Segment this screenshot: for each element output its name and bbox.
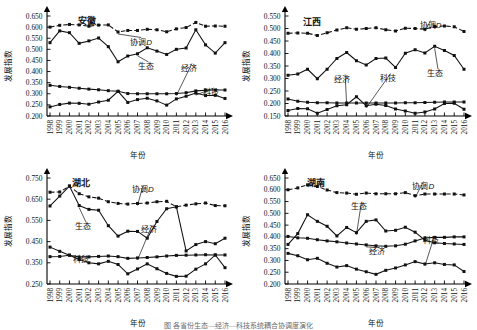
data-point-marker <box>194 21 197 24</box>
data-point-marker <box>345 226 348 229</box>
data-point-marker <box>287 252 290 255</box>
y-tick-label: 0.450 <box>26 237 43 246</box>
x-tick-label: 2005 <box>115 120 123 135</box>
series-label-经济: 经济 <box>369 246 385 256</box>
x-tick-label: 2016 <box>222 120 230 135</box>
data-point-marker <box>49 204 52 207</box>
data-point-marker <box>326 68 329 71</box>
data-point-marker <box>165 104 168 107</box>
data-point-marker <box>433 261 436 264</box>
data-point-marker <box>404 191 407 194</box>
data-point-marker <box>384 104 387 107</box>
data-point-marker <box>204 25 207 28</box>
data-point-marker <box>107 260 110 263</box>
data-point-marker <box>78 102 81 105</box>
data-point-marker <box>155 220 158 223</box>
x-tick-label: 2008 <box>144 120 152 135</box>
data-point-marker <box>97 197 100 200</box>
x-tick-label: 2006 <box>124 288 132 303</box>
data-point-marker <box>58 29 61 32</box>
data-point-marker <box>414 112 417 115</box>
data-point-marker <box>423 111 426 114</box>
data-point-marker <box>58 255 61 258</box>
data-point-marker <box>78 87 81 90</box>
data-point-marker <box>375 103 378 106</box>
data-point-marker <box>316 101 319 104</box>
data-point-marker <box>126 272 129 275</box>
data-point-marker <box>97 37 100 40</box>
data-point-marker <box>117 263 120 266</box>
y-tick-label: 0.300 <box>264 74 281 83</box>
x-tick-label: 2007 <box>373 288 381 303</box>
data-point-marker <box>78 204 81 207</box>
data-point-marker <box>146 46 149 49</box>
series-line-科技 <box>288 253 464 274</box>
data-point-marker <box>335 191 338 194</box>
x-tick-label: 2000 <box>304 288 312 303</box>
data-point-marker <box>68 254 71 257</box>
data-point-marker <box>214 242 217 245</box>
x-tick-label: 1999 <box>56 120 64 135</box>
data-point-marker <box>296 232 299 235</box>
y-tick-label: 0.400 <box>26 67 43 76</box>
data-point-marker <box>375 273 378 276</box>
data-point-marker <box>87 195 90 198</box>
data-point-marker <box>146 202 149 205</box>
data-point-marker <box>224 204 227 207</box>
data-point-marker <box>97 88 100 91</box>
y-tick-label: 0.600 <box>264 185 281 194</box>
data-point-marker <box>117 60 120 63</box>
data-point-marker <box>155 92 158 95</box>
data-point-marker <box>155 99 158 102</box>
figure-panel-grid: 0.2000.2500.3000.3500.4000.4500.5000.550… <box>0 0 477 330</box>
data-point-marker <box>463 68 466 71</box>
x-tick-label: 2009 <box>392 288 400 303</box>
y-tick-label: 0.450 <box>264 221 281 230</box>
x-tick-label: 2013 <box>431 120 439 135</box>
x-tick-label: 2000 <box>66 288 74 303</box>
data-point-marker <box>345 242 348 245</box>
data-point-marker <box>433 45 436 48</box>
data-point-marker <box>335 29 338 32</box>
data-point-marker <box>107 200 110 203</box>
data-point-marker <box>453 54 456 57</box>
data-point-marker <box>384 269 387 272</box>
data-point-marker <box>384 230 387 233</box>
y-tick-label: 0.450 <box>26 56 43 65</box>
x-tick-label: 2000 <box>304 120 312 135</box>
data-point-marker <box>404 27 407 30</box>
x-tick-label: 2005 <box>115 288 123 303</box>
series-line-生态 <box>50 186 225 251</box>
data-point-marker <box>433 108 436 111</box>
x-tick-label: 2004 <box>343 120 351 135</box>
data-point-marker <box>146 256 149 259</box>
data-point-marker <box>214 25 217 28</box>
data-point-marker <box>97 209 100 212</box>
y-tick-label: 0.650 <box>26 12 43 21</box>
data-point-marker <box>414 239 417 242</box>
x-tick-label: 1999 <box>294 288 302 303</box>
data-point-marker <box>296 236 299 239</box>
data-point-marker <box>463 101 466 104</box>
x-tick-label: 2011 <box>412 120 420 135</box>
x-tick-label: 2006 <box>124 120 132 135</box>
data-point-marker <box>463 243 466 246</box>
data-point-marker <box>394 229 397 232</box>
data-point-marker <box>68 102 71 105</box>
data-point-marker <box>345 264 348 267</box>
x-tick-label: 1998 <box>285 120 293 135</box>
data-point-marker <box>414 101 417 104</box>
data-point-marker <box>68 23 71 26</box>
x-tick-label: 2014 <box>441 120 449 135</box>
data-point-marker <box>394 244 397 247</box>
x-tick-label: 1999 <box>294 120 302 135</box>
data-point-marker <box>165 92 168 95</box>
series-label-协调D: 协调D <box>412 181 434 191</box>
data-point-marker <box>453 25 456 28</box>
series-label-科技: 科技 <box>423 235 439 245</box>
x-tick-label: 2002 <box>85 120 93 135</box>
data-point-marker <box>355 268 358 271</box>
data-point-marker <box>58 85 61 88</box>
x-tick-label: 2004 <box>105 120 113 135</box>
data-point-marker <box>394 30 397 33</box>
